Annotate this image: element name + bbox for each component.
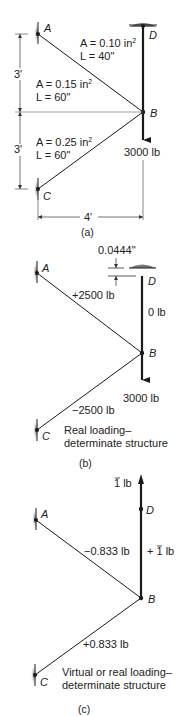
- panel-c: 1 lb A D B C −0.833 lb + 1 lb +0.833 lb …: [31, 474, 174, 715]
- note-line2: determinate structure: [64, 437, 168, 449]
- member-ab-area: A = 0.15 in2: [36, 78, 92, 90]
- member-ab: [36, 520, 141, 598]
- node-d-label: D: [146, 504, 154, 516]
- support-d-icon: [129, 265, 156, 269]
- member-bd-length: L = 40": [80, 50, 114, 62]
- node-a-label: A: [41, 262, 49, 274]
- node-c-label: C: [42, 430, 50, 442]
- unit-load-label: 1 lb: [114, 477, 132, 489]
- node-b-label: B: [150, 107, 157, 119]
- member-ab-length: L = 60": [36, 91, 70, 103]
- note-line2: determinate structure: [62, 679, 166, 691]
- force-ab: −0.833 lb: [84, 545, 130, 557]
- node-b-label: B: [149, 347, 156, 359]
- node-c-label: C: [43, 190, 51, 202]
- caption-b: (b): [79, 457, 92, 469]
- unit-load-arrow-icon: [138, 474, 144, 484]
- panel-b: 0.0444" A D B C +2500 lb 0 lb 3000 lb −2…: [33, 244, 168, 469]
- member-bc-area: A = 0.25 in2: [36, 136, 92, 148]
- caption-a: (a): [81, 226, 94, 238]
- member-bd-area: A = 0.10 in2: [80, 37, 136, 49]
- gap-label: 0.0444": [98, 244, 136, 256]
- truss-figure: A D B C A = 0.10 in2 L = 40" A = 0.15 in…: [0, 0, 192, 716]
- node-d-label: D: [148, 275, 156, 287]
- force-bd: 0 lb: [148, 306, 166, 318]
- note-line1: Virtual or real loading–: [62, 666, 173, 678]
- node-d-label: D: [149, 29, 157, 41]
- force-bc: −2500 lb: [72, 404, 115, 416]
- load-label: 3000 lb: [123, 392, 159, 404]
- dim-lower: 3': [14, 143, 22, 155]
- dim-horizontal: 4': [84, 211, 92, 223]
- node-a-label: A: [40, 508, 48, 520]
- member-bc-length: L = 60": [36, 149, 70, 161]
- dim-upper: 3': [14, 68, 22, 80]
- caption-c: (c): [78, 703, 90, 715]
- member-bc: [35, 598, 141, 675]
- node-c-label: C: [40, 676, 48, 688]
- note-line1: Real loading–: [64, 424, 132, 436]
- member-ab: [37, 273, 142, 353]
- panel-a: A D B C A = 0.10 in2 L = 40" A = 0.15 in…: [14, 22, 160, 238]
- load-label: 3000 lb: [124, 146, 160, 158]
- force-bd: + 1 lb: [147, 545, 174, 557]
- node-b-label: B: [148, 593, 155, 605]
- force-ab: +2500 lb: [72, 289, 115, 301]
- node-a-label: A: [43, 22, 51, 34]
- force-bc: +0.833 lb: [83, 638, 129, 650]
